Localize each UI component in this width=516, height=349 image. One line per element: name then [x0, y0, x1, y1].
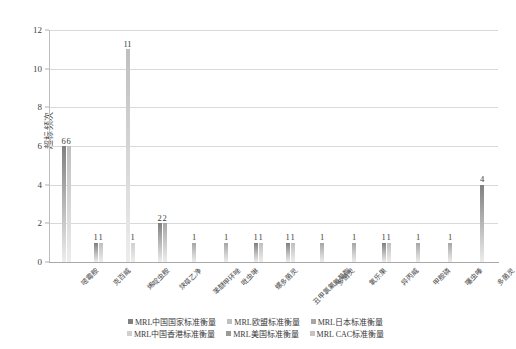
plot-area: 6611111221111111111114	[50, 30, 498, 262]
bar	[448, 243, 452, 262]
x-axis-tick-label: 异丙威	[398, 265, 420, 287]
bar	[94, 243, 98, 262]
bar-wrapper: 1	[131, 30, 135, 262]
legend-label: MRL欧盟标准衡量	[234, 316, 299, 327]
bar-value-label: 1	[416, 233, 420, 242]
y-axis-ticks: 024681012	[0, 30, 50, 262]
bar-group: 11	[82, 30, 114, 262]
x-axis-tick-label: 烯啶虫胺	[144, 265, 171, 292]
x-axis-tick-label: 噻虫嗪	[462, 265, 484, 287]
legend-item[interactable]: MRL美国标准衡量	[226, 328, 298, 339]
bar-group: 1	[178, 30, 210, 262]
legend-item[interactable]: MRL中国国家标准衡量	[128, 316, 216, 327]
x-axis-labels: 嘧霉胺克百威烯啶虫胺炔草乙净苯醚甲环唑吡虫啉螺多菌灵丑甲氯氟氰菊酯多菌灵氧乐果异…	[50, 263, 498, 313]
y-axis-tick-label: 10	[33, 64, 42, 74]
bar-wrapper: 1	[352, 30, 356, 262]
bar	[480, 185, 484, 262]
bar-wrapper: 1	[387, 30, 391, 262]
legend-label: MRL日本标准衡量	[318, 316, 383, 327]
x-axis-tick-label: 甲胺磷	[430, 265, 452, 287]
bar-value-label: 1	[130, 233, 134, 242]
legend-swatch-icon	[227, 319, 232, 324]
legend-item[interactable]: MRL CAC标准衡量	[310, 328, 385, 339]
bar	[224, 243, 228, 262]
x-axis-tick-label: 氧乐果	[366, 265, 388, 287]
bar	[254, 243, 258, 262]
legend-item[interactable]: MRL中国香港标准衡量	[127, 328, 215, 339]
x-axis-tick-label: 多菌灵	[334, 265, 356, 287]
legend-swatch-icon	[128, 319, 133, 324]
bar-value-label: 1	[386, 233, 390, 242]
bar-wrapper: 4	[480, 30, 484, 262]
bar-wrapper: 1	[320, 30, 324, 262]
bar-group: 11	[370, 30, 402, 262]
bar	[158, 223, 162, 262]
legend-item[interactable]: MRL欧盟标准衡量	[227, 316, 299, 327]
bar	[62, 146, 66, 262]
bar-value-label: 2	[157, 214, 161, 223]
bar-wrapper: 1	[254, 30, 258, 262]
bar-value-label: 6	[61, 137, 65, 146]
chart-legend: MRL中国国家标准衡量MRL欧盟标准衡量MRL日本标准衡量MRL中国香港标准衡量…	[0, 316, 511, 339]
legend-row: MRL中国国家标准衡量MRL欧盟标准衡量MRL日本标准衡量	[128, 316, 383, 327]
x-axis-tick-label: 克百威	[110, 265, 132, 287]
bar-wrapper: 1	[286, 30, 290, 262]
bar-value-label: 1	[285, 233, 289, 242]
bar-group: 22	[146, 30, 178, 262]
bar	[163, 223, 167, 262]
bar-value-label: 6	[66, 137, 70, 146]
bar-wrapper: 11	[126, 30, 130, 262]
legend-label: MRL美国标准衡量	[233, 328, 298, 339]
bar	[192, 243, 196, 262]
bar-wrapper: 1	[291, 30, 295, 262]
bar-wrapper: 1	[224, 30, 228, 262]
legend-swatch-icon	[310, 331, 315, 336]
bar	[382, 243, 386, 262]
bar-group: 1	[434, 30, 466, 262]
bar-value-label: 1	[258, 233, 262, 242]
bar-group: 11	[242, 30, 274, 262]
bar-group: 1	[338, 30, 370, 262]
bar-value-label: 1	[448, 233, 452, 242]
y-axis-tick-label: 8	[38, 102, 43, 112]
bar	[291, 243, 295, 262]
bar	[99, 243, 103, 262]
bar-group: 66	[50, 30, 82, 262]
bar-wrapper: 1	[416, 30, 420, 262]
y-axis-tick-label: 0	[38, 257, 43, 267]
legend-label: MRL中国国家标准衡量	[135, 316, 216, 327]
bar-group: 11	[274, 30, 306, 262]
bar-wrapper: 6	[67, 30, 71, 262]
bar-value-label: 1	[192, 233, 196, 242]
bar-wrapper: 1	[382, 30, 386, 262]
bar	[387, 243, 391, 262]
bar-value-label: 1	[290, 233, 294, 242]
bar-wrapper: 1	[192, 30, 196, 262]
legend-label: MRL CAC标准衡量	[317, 328, 385, 339]
x-axis-tick-label: 苯醚甲环唑	[210, 265, 242, 297]
bar-wrapper: 1	[448, 30, 452, 262]
x-axis-tick-label: 炔草乙净	[176, 265, 203, 292]
y-axis-tick-label: 4	[38, 180, 43, 190]
bars-layer: 6611111221111111111114	[50, 30, 498, 262]
bar-value-label: 1	[381, 233, 385, 242]
bar	[126, 49, 130, 262]
y-axis-tick-label: 12	[33, 25, 42, 35]
y-axis-tick-label: 2	[38, 218, 43, 228]
bar-group: 111	[114, 30, 146, 262]
legend-swatch-icon	[127, 331, 132, 336]
x-axis-tick-label: 螺多菌灵	[272, 265, 299, 292]
bar-wrapper: 1	[259, 30, 263, 262]
bar-value-label: 1	[224, 233, 228, 242]
legend-row: MRL中国香港标准衡量MRL美国标准衡量MRL CAC标准衡量	[127, 328, 384, 339]
bar-value-label: 1	[320, 233, 324, 242]
legend-item[interactable]: MRL日本标准衡量	[311, 316, 383, 327]
bar	[352, 243, 356, 262]
bar	[67, 146, 71, 262]
bar-value-label: 1	[93, 233, 97, 242]
bar-wrapper: 1	[94, 30, 98, 262]
x-axis-tick-label: 嘧霉胺	[78, 265, 100, 287]
legend-swatch-icon	[311, 319, 316, 324]
bar-wrapper: 2	[163, 30, 167, 262]
